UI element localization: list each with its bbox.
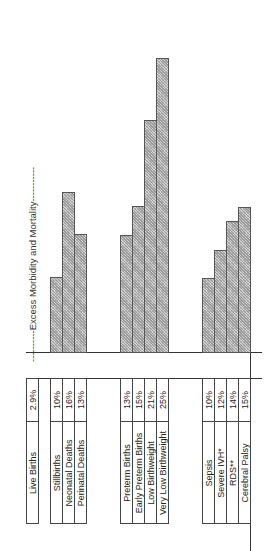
value-cell: 13% — [74, 378, 87, 422]
label-text: Perinatal Deaths — [76, 439, 86, 506]
label-text: Stillbirths — [52, 454, 62, 491]
bar-perinatal-deaths — [74, 234, 87, 353]
label-text: Cerebral Palsy — [240, 443, 250, 502]
value-cell: 2.9% — [26, 378, 39, 422]
label-text: Early Preterm Births — [134, 432, 144, 513]
value-text: 13% — [122, 391, 132, 409]
label-cell: Cerebral Palsy — [238, 421, 251, 524]
label-cell: Very Low Birthweight — [156, 421, 169, 524]
label-cell: Live Births — [26, 421, 39, 524]
label-text: Preterm Births — [122, 444, 132, 502]
value-text: 10% — [204, 391, 214, 409]
value-cell: 15% — [238, 378, 251, 422]
label-text: Neonatal Deaths — [64, 439, 74, 506]
value-text: 15% — [240, 391, 250, 409]
value-text: 12% — [216, 391, 226, 409]
value-text: 14% — [228, 391, 238, 409]
value-text: 13% — [76, 391, 86, 409]
label-cell: Perinatal Deaths — [74, 421, 87, 524]
value-text: 25% — [158, 391, 168, 409]
label-text: RDS** — [228, 459, 238, 485]
value-text: 2.9% — [28, 390, 38, 411]
value-cell: 25% — [156, 378, 169, 422]
label-text: Very Low Birthweight — [158, 430, 168, 514]
label-text: Sepsis — [204, 459, 214, 486]
label-text: Live Births — [28, 451, 38, 493]
bar-cerebral-palsy — [238, 207, 251, 353]
value-text: 15% — [134, 391, 144, 409]
value-text: 10% — [52, 391, 62, 409]
axis-title: ----------Excess Morbidity and Mortality… — [27, 167, 38, 362]
label-text: Severe IVH* — [216, 448, 226, 498]
label-text: Low Birthweight — [146, 441, 156, 505]
bar-very-low-birthweight — [156, 58, 169, 353]
value-text: 21% — [146, 391, 156, 409]
value-text: 16% — [64, 391, 74, 409]
